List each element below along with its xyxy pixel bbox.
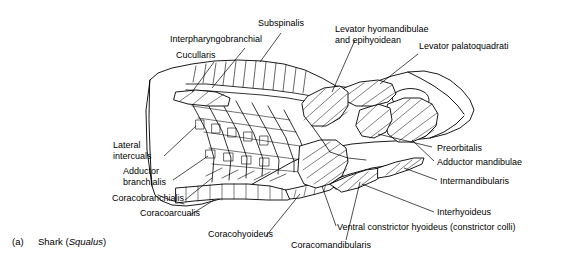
levator-palatoquadrati [344,80,396,106]
label-subspinalis: Subspinalis [258,18,304,29]
label-coracomandibularis: Coracomandibularis [291,240,371,251]
panel-letter: (a) [12,236,24,247]
label-coracobranchialis: Coracobranchialis [112,193,184,204]
label-ventral-constrictor-hyoideus: Ventral constrictor hyoideus (constricto… [337,222,516,233]
caption-genus: Squalus [69,236,103,247]
shark-muscle-anatomy-figure: Subspinalis Levator hyomandibulae and ep… [0,0,575,267]
leader-levator-hyomandibulae [332,40,355,92]
leader-ventral-constrictor [322,186,336,226]
leader-subspinalis [260,33,281,62]
label-interpharyngobranchial: Interpharyngobranchial [170,34,262,45]
leader-interhyoideus [362,184,434,212]
caption-common-name: Shark ( [38,236,69,247]
figure-caption: Shark (Squalus) [38,236,106,247]
label-levator-palatoquadrati: Levator palatoquadrati [419,41,509,52]
label-levator-hyomandibulae: Levator hyomandibulae and epihyoidean [335,24,429,45]
intermandibularis [378,158,424,178]
label-cucullaris: Cucullaris [176,50,216,61]
label-adductor-mandibulae: Adductor mandibulae [437,157,522,168]
label-coracoarcualis: Coracoarcualis [140,208,200,219]
label-preorbitalis: Preorbitalis [437,143,482,154]
label-intermandibularis: Intermandibularis [440,176,509,187]
label-coracohyoideus: Coracohyoideus [208,229,273,240]
label-interhyoideus: Interhyoideus [437,207,491,218]
leader-intermandibularis [404,168,437,180]
label-adductor-branchialis: Adductor branchialis [123,166,166,187]
label-lateral-intercuals: Lateral intercuals [113,140,152,161]
coracoarcualis [176,184,294,203]
caption-close: ) [103,236,106,247]
